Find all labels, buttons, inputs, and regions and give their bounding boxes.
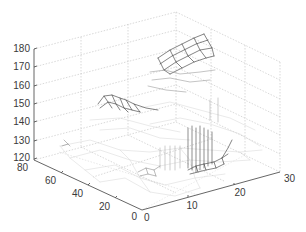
z-tick-130: 130 [13,135,30,146]
x-tick-30: 30 [284,173,296,184]
z-tick-140: 140 [13,116,30,127]
z-tick-labels: 180 170 160 150 140 130 120 [13,43,30,163]
mesh-plot-figure: 180 170 160 150 140 130 120 80 60 40 20 … [0,0,306,232]
y-tick-60: 60 [45,175,57,186]
z-tick-160: 160 [13,80,30,91]
x-tick-labels: 0 10 20 30 [144,173,296,223]
plot-canvas: 180 170 160 150 140 130 120 80 60 40 20 … [0,0,306,232]
y-tick-80: 80 [17,162,29,173]
grid-lines [34,12,280,210]
y-tick-20: 20 [99,201,111,212]
z-tick-180: 180 [13,43,30,54]
x-tick-20: 20 [234,187,246,198]
x-tick-10: 10 [186,200,198,211]
y-tick-40: 40 [72,188,84,199]
x-tick-0: 0 [144,212,150,223]
mesh-surface [60,34,262,196]
y-tick-0: 0 [131,211,137,222]
z-tick-150: 150 [13,98,30,109]
x-axis-line [142,172,280,210]
z-tick-170: 170 [13,61,30,72]
